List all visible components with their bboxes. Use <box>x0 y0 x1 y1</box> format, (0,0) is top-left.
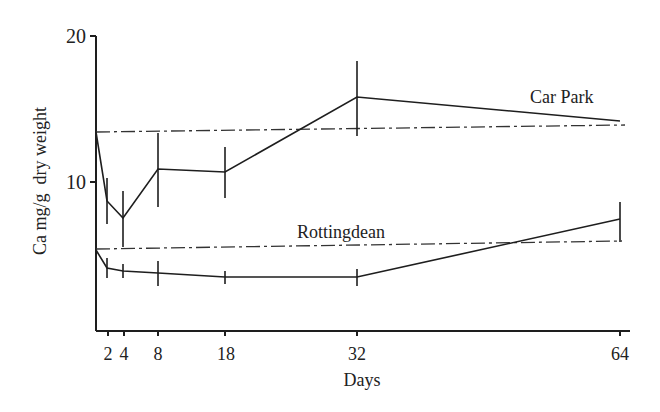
x-axis-title: Days <box>344 370 381 390</box>
x-tick-label-18: 18 <box>217 344 235 364</box>
car-park-reference-line <box>96 125 625 132</box>
car-park-label: Car Park <box>530 87 593 107</box>
rottingdean-reference-line <box>96 241 622 249</box>
x-tick-label-32: 32 <box>348 344 366 364</box>
y-tick-label-10: 10 <box>66 171 86 193</box>
rottingdean-label: Rottingdean <box>297 222 385 242</box>
x-tick-label-64: 64 <box>611 344 629 364</box>
rottingdean-series <box>96 202 620 286</box>
x-tick-label-8: 8 <box>154 344 163 364</box>
x-tick-label-2: 2 <box>104 344 113 364</box>
y-axis-title: Ca mg/g dry weight <box>30 107 50 255</box>
x-tick-label-4: 4 <box>120 344 129 364</box>
car-park-line <box>96 97 620 218</box>
axes <box>90 36 630 336</box>
calcium-line-chart: 20 10 2 4 8 18 32 64 Days Ca mg/g dry we… <box>0 0 660 412</box>
y-tick-label-20: 20 <box>66 25 86 47</box>
